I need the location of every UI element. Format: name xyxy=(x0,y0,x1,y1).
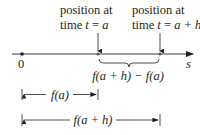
annotation-right-line2: time t = a + h xyxy=(132,18,200,32)
measure-f-a-plus-h-label: f(a + h) xyxy=(74,113,113,127)
annotation-right-line1: position at xyxy=(132,3,185,17)
difference-label: f(a + h) − f(a) xyxy=(92,69,164,83)
annotation-left-line2: time t = a xyxy=(60,18,108,32)
annotation-time-a: position at time t = a xyxy=(60,3,113,32)
axis-variable-label: s xyxy=(186,57,191,71)
point-a xyxy=(97,53,100,56)
measure-f-a-plus-h: f(a + h) xyxy=(22,113,160,127)
annotation-left-line1: position at xyxy=(60,3,113,17)
measure-f-a: f(a) xyxy=(22,88,98,102)
origin-label: 0 xyxy=(18,57,24,71)
measure-f-a-label: f(a) xyxy=(51,88,69,102)
annotation-time-a-plus-h: position at time t = a + h xyxy=(132,3,200,32)
point-a-plus-h xyxy=(159,53,162,56)
origin-point xyxy=(20,52,24,56)
position-diagram: position at time t = a position at time … xyxy=(0,0,200,135)
difference-brace xyxy=(99,59,159,67)
